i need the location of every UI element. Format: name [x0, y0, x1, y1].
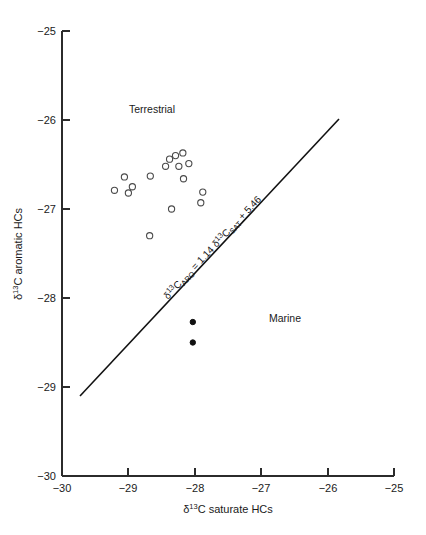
- axes: [62, 31, 394, 476]
- x-tick-label-25: −25: [385, 482, 404, 494]
- y-tick-label-30: −30: [37, 470, 56, 482]
- x-tick-label-30: −30: [53, 482, 72, 494]
- data-point-filled: [190, 340, 195, 345]
- data-point-open: [111, 187, 117, 193]
- data-point-open: [172, 153, 178, 159]
- x-axis-title-main: C saturate HCs: [198, 503, 274, 515]
- y-tick-label-28: −28: [37, 292, 56, 304]
- data-point-open: [129, 184, 135, 190]
- x-axis-title: δ13C saturate HCs: [183, 502, 273, 515]
- x-tick-label-27: −27: [252, 482, 271, 494]
- scatter-plot-figure: −25 −26 −27 −28 −29 −30 −30 −29 −28 −27 …: [0, 0, 426, 535]
- data-point-open: [125, 190, 131, 196]
- y-axis-superscript: 13: [11, 286, 20, 294]
- data-point-open: [180, 176, 186, 182]
- y-tick-label-29: −29: [37, 381, 56, 393]
- data-point-open: [176, 163, 182, 169]
- data-point-open: [180, 150, 186, 156]
- data-point-open: [168, 206, 174, 212]
- data-point-open: [147, 233, 153, 239]
- eq-operator: = 1.14: [187, 242, 218, 274]
- series-marine-points: [190, 319, 195, 345]
- data-point-open: [147, 173, 153, 179]
- regression-equation-label: δ13CARO = 1.14 δ13CSAT + 5.46: [160, 192, 265, 303]
- data-point-open: [162, 163, 168, 169]
- series-terrestrial-points: [111, 150, 206, 239]
- y-axis-title-main: C aromatic HCs: [12, 207, 24, 285]
- y-tick-label-25: −25: [37, 25, 56, 37]
- eq-tail: + 5.46: [234, 193, 263, 223]
- y-axis-title: δ13C aromatic HCs: [11, 207, 24, 300]
- data-point-filled: [190, 319, 195, 324]
- terrestrial-region-label: Terrestrial: [129, 103, 175, 115]
- x-axis-superscript: 13: [189, 502, 197, 511]
- marine-region-label: Marine: [269, 312, 301, 324]
- chart-canvas: −25 −26 −27 −28 −29 −30 −30 −29 −28 −27 …: [0, 0, 426, 535]
- x-tick-label-28: −28: [186, 482, 205, 494]
- x-tick-label-26: −26: [319, 482, 338, 494]
- data-point-open: [121, 174, 127, 180]
- y-axis-ticks: −25 −26 −27 −28 −29 −30: [37, 25, 70, 482]
- x-axis-ticks: −30 −29 −28 −27 −26 −25: [53, 468, 404, 494]
- y-tick-label-27: −27: [37, 203, 56, 215]
- data-point-open: [186, 161, 192, 167]
- data-point-open: [166, 156, 172, 162]
- data-point-open: [200, 189, 206, 195]
- y-tick-label-26: −26: [37, 114, 56, 126]
- x-tick-label-29: −29: [119, 482, 138, 494]
- data-point-open: [198, 200, 204, 206]
